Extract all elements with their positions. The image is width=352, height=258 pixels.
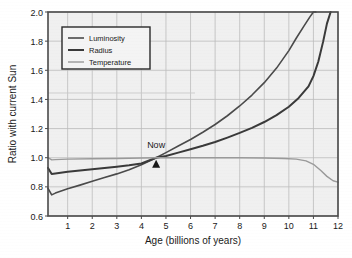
legend-label-radius: Radius <box>89 46 113 55</box>
y-axis-label: Ratio with current Sun <box>7 65 18 163</box>
y-tick-label: 1.6 <box>30 66 43 76</box>
x-tick-label: 10 <box>284 221 294 231</box>
x-tick-label: 5 <box>163 221 168 231</box>
x-tick-label: 3 <box>114 221 119 231</box>
x-tick-label: 9 <box>262 221 267 231</box>
legend-label-temperature: Temperature <box>89 58 131 67</box>
x-tick-label: 4 <box>139 221 144 231</box>
y-tick-label: 1.4 <box>30 95 43 105</box>
now-annotation-label: Now <box>147 140 166 150</box>
y-tick-label: 1.0 <box>30 153 43 163</box>
x-tick-label: 12 <box>333 221 343 231</box>
x-tick-label: 6 <box>188 221 193 231</box>
x-tick-label: 2 <box>90 221 95 231</box>
chart-figure: 0.60.81.01.21.41.61.82.0123456789101112A… <box>0 0 352 258</box>
x-tick-label: 11 <box>309 221 318 231</box>
solar-evolution-line-chart: 0.60.81.01.21.41.61.82.0123456789101112A… <box>0 0 352 258</box>
y-tick-label: 0.6 <box>30 212 43 222</box>
x-tick-label: 7 <box>213 221 218 231</box>
x-tick-label: 1 <box>65 221 70 231</box>
x-tick-label: 8 <box>237 221 242 231</box>
y-tick-label: 2.0 <box>30 8 43 18</box>
y-tick-label: 1.8 <box>30 37 43 47</box>
y-tick-label: 1.2 <box>30 124 43 134</box>
y-tick-label: 0.8 <box>30 182 43 192</box>
legend-label-luminosity: Luminosity <box>89 34 125 43</box>
x-axis-label: Age (billions of years) <box>145 235 241 246</box>
